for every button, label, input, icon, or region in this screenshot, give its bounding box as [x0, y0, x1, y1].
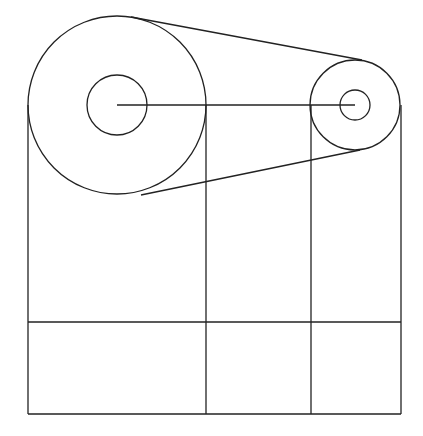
belt-pulley-diagram	[0, 0, 423, 436]
belt-top	[131, 17, 362, 60]
belt-bottom	[141, 150, 360, 195]
